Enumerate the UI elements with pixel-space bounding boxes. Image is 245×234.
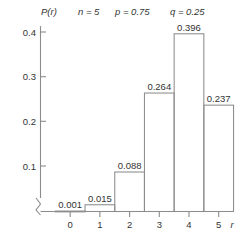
bar-value-label-r-1: 0.015 [88, 193, 112, 204]
x-tick-label-5: 5 [216, 219, 221, 230]
y-axis-label: P(r) [41, 6, 57, 17]
bar-r-2 [115, 172, 145, 211]
bar-r-3 [144, 93, 174, 211]
bar-r-4 [174, 34, 204, 212]
x-tick-label-3: 3 [157, 219, 162, 230]
bar-r-1 [85, 205, 115, 212]
bars-group [55, 34, 233, 212]
bar-value-label-r-3: 0.264 [147, 81, 171, 92]
bar-r-0 [55, 211, 85, 212]
axis-break-icon [36, 198, 41, 215]
y-tick-label-0.2: 0.2 [23, 116, 36, 127]
bar-value-label-r-2: 0.088 [118, 160, 142, 171]
annotation-q: q = 0.25 [170, 6, 205, 17]
chart-canvas: P(r) n = 5 p = 0.75 q = 0.25 0.4 0.3 0.2… [0, 0, 245, 234]
bar-value-label-r-4: 0.396 [177, 22, 201, 33]
annotation-p: p = 0.75 [114, 6, 150, 17]
x-tick-label-4: 4 [186, 219, 191, 230]
y-tick-label-0.1: 0.1 [23, 161, 36, 172]
annotation-n: n = 5 [78, 6, 100, 17]
x-tick-label-0: 0 [68, 219, 73, 230]
binomial-distribution-chart: P(r) n = 5 p = 0.75 q = 0.25 0.4 0.3 0.2… [0, 0, 245, 234]
x-tick-label-2: 2 [127, 219, 132, 230]
x-tick-label-1: 1 [97, 219, 102, 230]
y-tick-label-0.3: 0.3 [23, 71, 36, 82]
bar-value-label-r-0: 0.001 [58, 199, 82, 210]
x-axis-label: r [230, 219, 234, 230]
y-tick-label-0.4: 0.4 [23, 27, 36, 38]
bar-r-5 [204, 105, 234, 211]
bar-value-label-r-5: 0.237 [207, 93, 231, 104]
